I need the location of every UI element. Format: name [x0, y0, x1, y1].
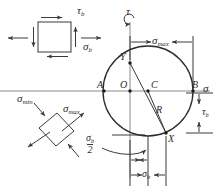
- point-label-A: A: [97, 80, 103, 90]
- tau-b-dimension: [186, 93, 213, 133]
- fraction-numerator: σb: [86, 132, 94, 143]
- radius-label-R: R: [156, 105, 162, 115]
- fraction-denominator: 2: [88, 144, 93, 155]
- sigma-b-half-fraction-label: σb 2: [86, 133, 94, 156]
- point-label-C: C: [151, 80, 158, 90]
- principal-element-square: [39, 113, 74, 146]
- stress-element-square: [38, 22, 71, 52]
- sigma-max-dimension-label: σmax: [152, 35, 169, 48]
- point-label-X: X: [168, 134, 174, 144]
- point-label-Y: Y: [120, 52, 126, 62]
- sigma-min-label: σmin: [17, 93, 33, 106]
- bending-stress-label: σb: [83, 41, 92, 54]
- tau-axis: [124, 14, 134, 178]
- mohr-circle-figure: [0, 0, 222, 194]
- circle-chord-YX: [130, 63, 166, 133]
- stress-element-shear-arrows: [34, 18, 76, 57]
- sigma-b-dimension-label: σb: [142, 169, 150, 180]
- shear-stress-label: τb: [77, 5, 84, 18]
- tau-b-dimension-label: τb: [202, 107, 209, 118]
- tau-axis-label: τ: [126, 6, 130, 17]
- point-label-B: B: [192, 80, 198, 90]
- sigma-max-element-label: σmax: [63, 103, 80, 116]
- sigma-axis-label: σ: [203, 83, 208, 94]
- point-label-O: O: [120, 80, 127, 90]
